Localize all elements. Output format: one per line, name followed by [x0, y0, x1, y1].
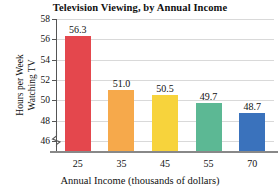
bar: 56.3	[65, 36, 91, 151]
bar-value-label: 49.7	[200, 91, 218, 102]
y-tick-label: 54	[41, 55, 51, 65]
bar: 51.0	[108, 90, 134, 151]
plot-inner: 46485052545658 56.351.050.549.748.7	[56, 19, 274, 151]
bar-value-label: 51.0	[113, 78, 131, 89]
y-tick-label: 58	[41, 14, 51, 24]
y-tick-label: 50	[41, 95, 51, 105]
y-tick-label: 48	[41, 116, 51, 126]
x-tick-label: 55	[204, 158, 214, 169]
bar: 48.7	[239, 113, 265, 151]
x-tick-label: 45	[160, 158, 170, 169]
bar-value-label: 50.5	[156, 83, 174, 94]
chart-figure: Television Viewing, by Annual Income Hou…	[0, 0, 280, 193]
gridline	[56, 19, 274, 20]
axis-break-icon	[51, 131, 62, 147]
x-axis-line	[50, 151, 278, 153]
bar: 49.7	[196, 103, 222, 151]
x-tick-label: 25	[73, 158, 83, 169]
y-axis-title: Hours per Week Watching TV	[2, 20, 28, 150]
plot-area: 46485052545658 56.351.050.549.748.7 2535…	[56, 19, 274, 151]
x-tick-label: 70	[247, 158, 257, 169]
x-axis-title: Annual Income (thousands of dollars)	[0, 175, 280, 186]
bar-value-label: 48.7	[243, 101, 261, 112]
y-tick-label: 56	[41, 34, 51, 44]
x-tick-label: 35	[116, 158, 126, 169]
bar: 50.5	[152, 95, 178, 151]
y-tick-label: 52	[41, 75, 51, 85]
bar-value-label: 56.3	[69, 24, 87, 35]
y-tick-label: 46	[41, 136, 51, 146]
chart-title: Television Viewing, by Annual Income	[0, 2, 280, 13]
